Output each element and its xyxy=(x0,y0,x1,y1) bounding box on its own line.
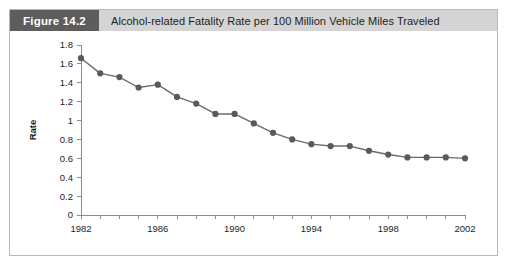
figure-container: Figure 14.2 Alcohol-related Fatality Rat… xyxy=(9,9,498,256)
y-axis-title: Rate xyxy=(27,120,38,141)
data-series-line xyxy=(81,58,465,158)
figure-caption: Alcohol-related Fatality Rate per 100 Mi… xyxy=(99,10,497,31)
y-tick-label: 1.2 xyxy=(60,96,73,107)
y-tick-label: 0.2 xyxy=(60,191,73,202)
y-tick-label: 1.8 xyxy=(60,39,73,50)
data-point xyxy=(347,143,353,149)
data-point xyxy=(232,111,238,117)
y-tick-label: 1 xyxy=(68,115,73,126)
y-tick-label: 1.4 xyxy=(60,77,73,88)
data-point xyxy=(462,155,468,161)
line-chart: 00.20.40.60.811.21.41.61.8 1982198619901… xyxy=(10,31,497,257)
y-tick-label: 0.4 xyxy=(60,172,73,183)
y-tick-label: 0 xyxy=(68,209,73,220)
data-point xyxy=(404,154,410,160)
x-tick-label: 1994 xyxy=(301,223,322,234)
data-point xyxy=(385,151,391,157)
data-point xyxy=(251,120,257,126)
data-point xyxy=(443,154,449,160)
x-tick-label: 1990 xyxy=(224,223,245,234)
y-axis: 00.20.40.60.811.21.41.61.8 xyxy=(60,39,81,220)
y-tick-label: 0.6 xyxy=(60,153,73,164)
y-tick-label: 0.8 xyxy=(60,134,73,145)
data-point xyxy=(424,154,430,160)
x-tick-label: 1982 xyxy=(70,223,91,234)
data-point xyxy=(212,111,218,117)
data-point xyxy=(116,74,122,80)
data-point xyxy=(174,94,180,100)
data-point xyxy=(78,55,84,61)
data-point xyxy=(308,141,314,147)
data-point xyxy=(155,82,161,88)
data-point-markers xyxy=(78,55,468,161)
data-point xyxy=(366,148,372,154)
data-point xyxy=(289,136,295,142)
data-point xyxy=(328,143,334,149)
data-point xyxy=(270,130,276,136)
x-tick-label: 2002 xyxy=(454,223,475,234)
x-tick-label: 1998 xyxy=(378,223,399,234)
x-axis: 198219861990199419982002 xyxy=(70,215,475,234)
x-tick-label: 1986 xyxy=(147,223,168,234)
figure-number-badge: Figure 14.2 xyxy=(10,10,99,31)
chart-plot-area: 00.20.40.60.811.21.41.61.8 1982198619901… xyxy=(10,31,497,257)
data-point xyxy=(136,84,142,90)
data-point xyxy=(97,70,103,76)
y-tick-label: 1.6 xyxy=(60,58,73,69)
figure-header: Figure 14.2 Alcohol-related Fatality Rat… xyxy=(10,10,497,31)
data-point xyxy=(193,100,199,106)
